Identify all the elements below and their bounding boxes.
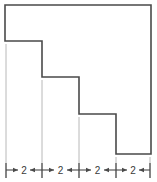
staircase-figure-svg: 2 2 2 2	[0, 0, 157, 182]
arrowhead-left-2	[67, 168, 72, 172]
dimension-arrows-group	[6, 168, 150, 172]
arrowhead-right-4	[122, 168, 127, 172]
dimension-label-4: 2	[130, 165, 136, 176]
arrowhead-right-2	[49, 168, 54, 172]
dimension-label-3: 2	[95, 165, 101, 176]
arrowhead-left-4	[139, 168, 144, 172]
figure-container: 2 2 2 2	[0, 0, 157, 182]
arrowhead-right-3	[86, 168, 91, 172]
arrowhead-left-1	[30, 168, 35, 172]
dimension-label-2: 2	[58, 165, 64, 176]
extension-lines-group	[6, 44, 150, 178]
staircase-polygon-outline	[5, 5, 151, 154]
dimension-label-1: 2	[21, 165, 27, 176]
arrowhead-left-3	[104, 168, 109, 172]
arrowhead-right-1	[13, 168, 18, 172]
